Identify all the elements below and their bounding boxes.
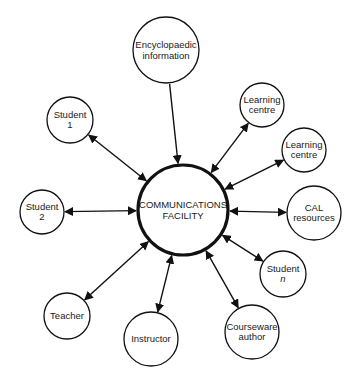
node-student-n-label-line-1: Student bbox=[267, 263, 300, 274]
edge-student-n bbox=[223, 235, 263, 261]
communications-diagram: EncyclopaedicinformationLearningcentreLe… bbox=[0, 0, 359, 385]
node-learning-centre-2-label-line-1: Learning bbox=[286, 139, 323, 150]
edge-student-2 bbox=[65, 211, 136, 212]
node-cal-resources-label-line-1: CAL bbox=[305, 202, 323, 213]
edge-learning-centre-2 bbox=[225, 160, 283, 189]
edge-courseware-author bbox=[206, 251, 238, 308]
node-instructor-label-line-1: Instructor bbox=[131, 333, 171, 344]
edge-cal-resources bbox=[230, 211, 286, 212]
edge-instructor bbox=[158, 256, 172, 312]
node-learning-centre-2: Learningcentre bbox=[282, 128, 326, 172]
node-encyclopaedic-label-line-1: Encyclopaedic bbox=[135, 39, 197, 50]
edge-encyclopaedic bbox=[170, 84, 178, 163]
edge-teacher bbox=[85, 242, 149, 300]
node-student-2-label-line-2: 2 bbox=[39, 211, 44, 222]
node-teacher-label-line-1: Teacher bbox=[50, 310, 84, 321]
node-cal-resources-label-line-2: resources bbox=[293, 212, 335, 223]
node-learning-centre-1-label-line-2: centre bbox=[249, 104, 275, 115]
node-courseware-author-label-line-2: author bbox=[239, 331, 266, 342]
node-encyclopaedic-label-line-2: information bbox=[143, 50, 190, 61]
node-instructor: Instructor bbox=[124, 312, 178, 366]
node-learning-centre-1-label-line-1: Learning bbox=[244, 94, 281, 105]
hub-label-line-1: COMMUNICATIONS bbox=[139, 199, 227, 210]
node-learning-centre-2-label-line-2: centre bbox=[291, 149, 317, 160]
edge-student-1 bbox=[89, 135, 146, 181]
node-courseware-author: Coursewareauthor bbox=[225, 305, 279, 359]
node-student-2-label-line-1: Student bbox=[26, 201, 59, 212]
node-learning-centre-1: Learningcentre bbox=[240, 83, 284, 127]
node-cal-resources: CALresources bbox=[287, 186, 341, 240]
hub-group: COMMUNICATIONSFACILITY bbox=[138, 165, 228, 255]
node-student-1-label-line-2: 1 bbox=[67, 119, 72, 130]
node-student-n: Studentn bbox=[260, 251, 306, 297]
node-student-1: Student1 bbox=[47, 97, 93, 143]
node-teacher: Teacher bbox=[44, 293, 90, 339]
node-student-1-label-line-1: Student bbox=[54, 109, 87, 120]
node-student-2: Student2 bbox=[20, 190, 64, 234]
node-courseware-author-label-line-1: Courseware bbox=[226, 321, 277, 332]
edge-learning-centre-1 bbox=[211, 123, 248, 172]
node-student-n-label-line-2: n bbox=[280, 273, 285, 284]
hub-label-line-2: FACILITY bbox=[162, 210, 204, 221]
node-encyclopaedic: Encyclopaedicinformation bbox=[133, 17, 199, 83]
